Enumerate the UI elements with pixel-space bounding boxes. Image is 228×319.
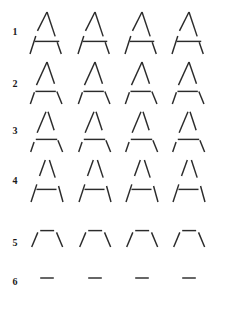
glyph-a-r5-c3 <box>125 228 159 248</box>
stroke-right-diagonal-seg-1 <box>97 160 103 178</box>
stroke-left-diagonal-seg-2 <box>179 112 188 133</box>
glyph-a-r6-c4 <box>172 272 206 284</box>
glyph-a-r4-c4 <box>172 160 206 202</box>
stimulus-row: 3 <box>0 110 228 152</box>
stroke-right-diagonal-seg-2 <box>152 91 157 104</box>
glyph-a-r2-c1 <box>30 62 64 104</box>
stimulus-row: 2 <box>0 62 228 104</box>
stroke-left-diagonal-seg-2 <box>37 12 47 31</box>
stroke-right-diagonal-seg-2 <box>106 140 111 152</box>
stroke-right-diagonal-seg-1 <box>47 12 55 36</box>
stroke-right-diagonal-seg-2 <box>107 186 111 202</box>
stimulus-row: 4 <box>0 160 228 202</box>
stroke-right-diagonal-seg-1 <box>49 160 55 178</box>
stroke-left-diagonal-seg-1 <box>172 92 176 104</box>
stroke-left-diagonal-seg-2 <box>36 62 47 85</box>
stroke-right-diagonal-seg-1 <box>48 112 54 130</box>
stroke-left-diagonal-seg-1 <box>79 184 85 202</box>
stroke-left-diagonal-seg-1 <box>80 232 86 247</box>
glyph-a-r5-c2 <box>78 228 112 248</box>
glyph-a-r3-c4 <box>172 110 206 152</box>
glyph-a-r2-c2 <box>78 62 112 104</box>
stroke-right-diagonal-seg-2 <box>57 91 62 104</box>
stroke-right-diagonal-seg-1 <box>199 232 205 247</box>
row-label-2: 2 <box>8 79 22 89</box>
stroke-left-diagonal-seg-2 <box>37 112 46 133</box>
stroke-right-diagonal-seg-2 <box>105 91 110 104</box>
stroke-left-diagonal-seg-2 <box>132 112 141 133</box>
glyph-a-r5-c1 <box>30 228 64 248</box>
glyph-a-r6-c3 <box>125 272 159 284</box>
stroke-left-diagonal-seg-1 <box>78 92 82 104</box>
stroke-right-diagonal-seg-2 <box>154 186 158 202</box>
stroke-left-diagonal-seg-1 <box>174 232 180 247</box>
stroke-right-diagonal-seg-1 <box>95 62 102 84</box>
stroke-left-diagonal-seg-2 <box>179 12 189 31</box>
stroke-left-diagonal-seg-2 <box>88 160 94 176</box>
stroke-left-diagonal-seg-1 <box>173 184 179 202</box>
glyph-a-r4-c1 <box>30 160 64 202</box>
glyph-a-r4-c2 <box>78 160 112 202</box>
stroke-left-diagonal-seg-2 <box>131 62 142 85</box>
glyph-a-r1-c4 <box>172 12 206 54</box>
glyph-a-r6-c2 <box>78 272 112 284</box>
stroke-left-diagonal-seg-1 <box>31 184 37 202</box>
stroke-left-diagonal-seg-1 <box>125 92 129 104</box>
stroke-right-diagonal-seg-2 <box>153 140 158 152</box>
stroke-right-diagonal-seg-1 <box>143 112 149 130</box>
row-label-4: 4 <box>8 176 22 186</box>
stroke-left-diagonal-seg-1 <box>79 142 82 152</box>
stroke-left-diagonal-seg-1 <box>78 36 84 54</box>
stroke-right-diagonal-seg-2 <box>57 42 61 54</box>
glyph-a-r1-c3 <box>125 12 159 54</box>
glyph-a-r3-c1 <box>30 110 64 152</box>
stimulus-row: 6 <box>0 272 228 284</box>
stroke-right-diagonal-seg-1 <box>190 112 196 130</box>
stroke-left-diagonal-seg-2 <box>85 112 94 133</box>
glyph-a-r5-c4 <box>172 228 206 248</box>
stroke-left-diagonal-seg-2 <box>182 160 188 176</box>
stimulus-row: 5 <box>0 228 228 248</box>
glyph-a-r2-c3 <box>125 62 159 104</box>
row-label-5: 5 <box>8 238 22 248</box>
stroke-right-diagonal-seg-1 <box>47 62 54 84</box>
stroke-right-diagonal-seg-1 <box>142 12 150 36</box>
stroke-right-diagonal-seg-1 <box>191 160 197 178</box>
stroke-left-diagonal-seg-1 <box>125 36 131 54</box>
stroke-right-diagonal-seg-2 <box>200 140 205 152</box>
stimulus-row: 1 <box>0 12 228 54</box>
stroke-left-diagonal-seg-2 <box>178 62 189 85</box>
stroke-left-diagonal-seg-1 <box>127 232 133 247</box>
stroke-right-diagonal-seg-1 <box>152 232 158 247</box>
stroke-left-diagonal-seg-1 <box>126 142 129 152</box>
stroke-right-diagonal-seg-2 <box>59 186 63 202</box>
stroke-left-diagonal-seg-1 <box>173 142 176 152</box>
stroke-left-diagonal-seg-2 <box>40 160 46 176</box>
stroke-right-diagonal-seg-1 <box>105 232 111 247</box>
glyph-a-r4-c3 <box>125 160 159 202</box>
stroke-left-diagonal-seg-1 <box>30 36 36 54</box>
stroke-right-diagonal-seg-2 <box>105 42 109 54</box>
stroke-right-diagonal-seg-2 <box>199 91 204 104</box>
row-label-3: 3 <box>8 126 22 136</box>
stroke-left-diagonal-seg-1 <box>31 142 34 152</box>
stroke-right-diagonal-seg-1 <box>96 112 102 130</box>
stroke-right-diagonal-seg-2 <box>152 42 156 54</box>
stroke-right-diagonal-seg-1 <box>144 160 150 178</box>
stroke-left-diagonal-seg-1 <box>30 92 34 104</box>
stroke-left-diagonal-seg-2 <box>135 160 141 176</box>
figure-canvas: 123456 <box>0 0 228 319</box>
stroke-right-diagonal-seg-2 <box>201 186 205 202</box>
stroke-left-diagonal-seg-2 <box>85 12 95 31</box>
stroke-left-diagonal-seg-1 <box>32 232 38 247</box>
stroke-right-diagonal-seg-1 <box>189 62 196 84</box>
stroke-left-diagonal-seg-2 <box>132 12 142 31</box>
stroke-right-diagonal-seg-2 <box>199 42 203 54</box>
row-label-6: 6 <box>8 277 22 287</box>
glyph-a-r2-c4 <box>172 62 206 104</box>
row-label-1: 1 <box>8 27 22 37</box>
stroke-left-diagonal-seg-2 <box>84 62 95 85</box>
glyph-a-r1-c2 <box>78 12 112 54</box>
glyph-a-r1-c1 <box>30 12 64 54</box>
stroke-right-diagonal-seg-1 <box>189 12 197 36</box>
